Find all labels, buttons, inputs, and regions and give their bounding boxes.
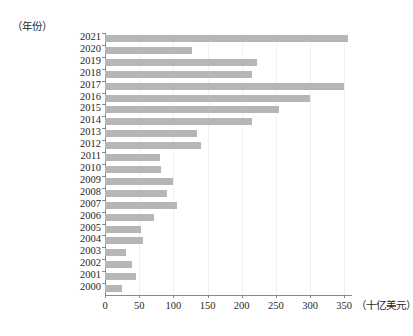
- y-axis-tick: [102, 176, 105, 177]
- x-axis-tick-label: 150: [200, 300, 216, 312]
- bar-row: 2000: [105, 283, 351, 295]
- x-axis-tick-label: 350: [336, 300, 352, 312]
- bar: [105, 154, 160, 161]
- bar: [105, 35, 348, 42]
- y-axis-tick: [102, 200, 105, 201]
- bar: [105, 249, 126, 256]
- y-axis-tick-label: 2003: [80, 245, 101, 257]
- x-axis-tick-label: 100: [165, 300, 181, 312]
- y-axis-tick: [102, 224, 105, 225]
- y-axis-tick: [102, 283, 105, 284]
- bar-row: 2016: [105, 93, 351, 105]
- y-axis-unit-label: （年份）: [12, 18, 52, 33]
- bar-row: 2012: [105, 140, 351, 152]
- bar-row: 2008: [105, 188, 351, 200]
- y-axis-tick-label: 2021: [80, 31, 101, 43]
- bar-row: 2020: [105, 45, 351, 57]
- x-axis-tick: [208, 295, 209, 298]
- y-axis-tick-label: 2001: [80, 269, 101, 281]
- bar-row: 2017: [105, 81, 351, 93]
- bar-row: 2014: [105, 116, 351, 128]
- bar: [105, 285, 122, 292]
- y-axis-tick: [102, 164, 105, 165]
- bar: [105, 118, 252, 125]
- bar: [105, 166, 161, 173]
- y-axis-tick: [102, 235, 105, 236]
- x-axis-tick: [344, 295, 345, 298]
- bar-row: 2019: [105, 57, 351, 69]
- x-axis-tick-label: 300: [302, 300, 318, 312]
- bar: [105, 214, 154, 221]
- bar-row: 2003: [105, 247, 351, 259]
- bar: [105, 190, 167, 197]
- x-axis-tick-label: 50: [134, 300, 145, 312]
- y-axis-tick-label: 2011: [80, 150, 101, 162]
- bar-row: 2010: [105, 164, 351, 176]
- bar-row: 2005: [105, 224, 351, 236]
- bar: [105, 130, 197, 137]
- y-axis-tick: [102, 45, 105, 46]
- x-axis-line: [105, 295, 352, 296]
- x-axis-tick-label: 200: [234, 300, 250, 312]
- y-axis-tick-label: 2018: [80, 67, 101, 79]
- y-axis-tick: [102, 128, 105, 129]
- bar: [105, 226, 141, 233]
- y-axis-tick: [102, 57, 105, 58]
- bar: [105, 95, 310, 102]
- bar: [105, 59, 257, 66]
- bar: [105, 142, 201, 149]
- bar-chart: （年份） 20212020201920182017201620152014201…: [0, 0, 413, 336]
- bar: [105, 261, 132, 268]
- y-axis-tick: [102, 152, 105, 153]
- y-axis-tick-label: 2008: [80, 186, 101, 198]
- y-axis-tick: [102, 104, 105, 105]
- y-axis-tick-label: 2012: [80, 138, 101, 150]
- y-axis-tick-label: 2000: [80, 281, 101, 293]
- y-axis-tick-label: 2017: [80, 79, 101, 91]
- x-axis-tick: [173, 295, 174, 298]
- bar-row: 2001: [105, 271, 351, 283]
- bar: [105, 47, 192, 54]
- y-axis-tick-label: 2013: [80, 126, 101, 138]
- y-axis-tick: [102, 212, 105, 213]
- bar-row: 2007: [105, 200, 351, 212]
- y-axis-tick: [102, 188, 105, 189]
- bar-row: 2002: [105, 259, 351, 271]
- y-axis-tick-label: 2006: [80, 210, 101, 222]
- x-axis-tick-label: 250: [268, 300, 284, 312]
- y-axis-tick-label: 2020: [80, 43, 101, 55]
- bar-row: 2021: [105, 33, 351, 45]
- bar: [105, 273, 136, 280]
- bar-row: 2004: [105, 235, 351, 247]
- x-axis-unit-label: （十亿美元）: [356, 300, 413, 312]
- y-axis-tick: [102, 93, 105, 94]
- bar-row: 2011: [105, 152, 351, 164]
- y-axis-tick-label: 2005: [80, 222, 101, 234]
- bar: [105, 178, 173, 185]
- bar-row: 2013: [105, 128, 351, 140]
- y-axis-tick-label: 2014: [80, 114, 101, 126]
- y-axis-tick-label: 2010: [80, 162, 101, 174]
- x-axis-tick: [310, 295, 311, 298]
- y-axis-tick: [102, 271, 105, 272]
- x-axis-tick: [105, 295, 106, 298]
- y-axis-tick: [102, 69, 105, 70]
- y-axis-tick: [102, 116, 105, 117]
- y-axis-tick-label: 2009: [80, 174, 101, 186]
- x-axis-tick: [242, 295, 243, 298]
- y-axis-tick: [102, 259, 105, 260]
- bar-row: 2018: [105, 69, 351, 81]
- y-axis-tick-label: 2004: [80, 233, 101, 245]
- y-axis-tick-label: 2016: [80, 91, 101, 103]
- x-axis-tick: [139, 295, 140, 298]
- plot-area: 2021202020192018201720162015201420132012…: [105, 33, 351, 295]
- bar-row: 2006: [105, 212, 351, 224]
- x-axis-tick: [276, 295, 277, 298]
- y-axis-tick: [102, 33, 105, 34]
- y-axis-tick-label: 2007: [80, 198, 101, 210]
- y-axis-tick: [102, 140, 105, 141]
- y-axis-tick-label: 2019: [80, 55, 101, 67]
- bar: [105, 83, 344, 90]
- bar-row: 2015: [105, 104, 351, 116]
- y-axis-tick: [102, 247, 105, 248]
